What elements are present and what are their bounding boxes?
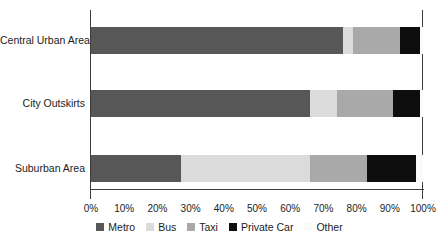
legend-swatch-taxi xyxy=(187,223,195,231)
legend-label: Metro xyxy=(108,221,135,233)
bar-segment-bus xyxy=(343,27,353,54)
bar-segment-bus xyxy=(310,90,337,117)
x-tick-label: 70% xyxy=(313,203,333,214)
legend-item-other: Other xyxy=(304,221,342,233)
bar-central-urban-area xyxy=(91,27,423,54)
bar-segment-metro xyxy=(91,90,310,117)
bar-city-outskirts xyxy=(91,90,423,117)
stacked-bar-chart: Central Urban AreaCity OutskirtsSuburban… xyxy=(0,0,439,240)
category-label-central-urban-area: Central Urban Area xyxy=(0,27,85,54)
legend-swatch-other xyxy=(304,223,312,231)
legend-label: Bus xyxy=(158,221,176,233)
bar-suburban-area xyxy=(91,155,423,182)
bar-segment-metro xyxy=(91,155,181,182)
x-tick-label: 90% xyxy=(380,203,400,214)
bar-segment-private-car xyxy=(393,90,420,117)
x-tick-labels: 0%10%20%30%40%50%60%70%80%90%100% xyxy=(91,203,423,217)
x-tick-label: 10% xyxy=(114,203,134,214)
legend-label: Other xyxy=(316,221,342,233)
legend: MetroBusTaxiPrivate CarOther xyxy=(0,221,439,233)
bar-segment-taxi xyxy=(337,90,393,117)
x-tick-label: 60% xyxy=(280,203,300,214)
bar-segment-other xyxy=(420,27,423,54)
legend-swatch-bus xyxy=(146,223,154,231)
plot-area xyxy=(91,10,423,189)
x-tick-label: 80% xyxy=(347,203,367,214)
legend-item-bus: Bus xyxy=(146,221,176,233)
category-label-city-outskirts: City Outskirts xyxy=(0,90,85,117)
bar-segment-metro xyxy=(91,27,343,54)
legend-item-taxi: Taxi xyxy=(187,221,218,233)
x-tick-label: 20% xyxy=(147,203,167,214)
legend-swatch-private-car xyxy=(229,223,237,231)
legend-item-metro: Metro xyxy=(96,221,135,233)
legend-label: Private Car xyxy=(241,221,294,233)
x-tick-label: 40% xyxy=(214,203,234,214)
bar-segment-private-car xyxy=(400,27,420,54)
bar-segment-other xyxy=(416,155,423,182)
legend-swatch-metro xyxy=(96,223,104,231)
x-tick-label: 50% xyxy=(247,203,267,214)
x-tick-label: 100% xyxy=(410,203,436,214)
category-label-suburban-area: Suburban Area xyxy=(0,155,85,182)
bar-segment-private-car xyxy=(367,155,417,182)
bar-segment-bus xyxy=(181,155,310,182)
legend-label: Taxi xyxy=(199,221,218,233)
x-axis xyxy=(90,189,424,190)
x-tick-label: 30% xyxy=(181,203,201,214)
x-tick-label: 0% xyxy=(84,203,98,214)
bar-segment-other xyxy=(420,90,423,117)
bar-segment-taxi xyxy=(310,155,366,182)
bar-segment-taxi xyxy=(353,27,399,54)
legend-item-private-car: Private Car xyxy=(229,221,294,233)
